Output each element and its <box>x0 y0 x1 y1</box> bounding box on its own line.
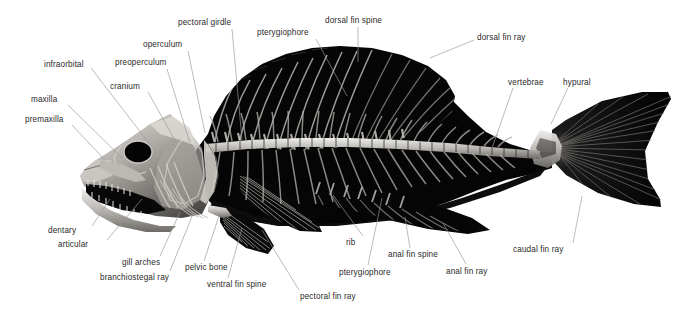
label-pectoral-girdle: pectoral girdle <box>178 18 231 27</box>
caudal-fin <box>530 92 672 207</box>
leader-line-vertebrae <box>492 88 513 148</box>
fish-anatomy-figure: pectoral girdlepterygiophoredorsal fin s… <box>0 0 686 318</box>
leader-line-dorsal-fin-ray <box>430 40 474 58</box>
label-pectoral-fin-ray: pectoral fin ray <box>300 292 356 301</box>
label-preoperculum: preoperculum <box>115 58 167 67</box>
label-infraorbital: infraorbital <box>44 60 84 69</box>
label-pterygiophore-bot: pterygiophore <box>339 268 391 277</box>
label-gill-arches: gill arches <box>122 258 160 267</box>
leader-line-operculum <box>188 51 205 133</box>
label-rib: rib <box>346 238 355 247</box>
label-operculum: operculum <box>143 40 182 49</box>
label-articular: articular <box>58 240 88 249</box>
leader-line-hypural <box>551 88 568 124</box>
label-branchiostegal-ray: branchiostegal ray <box>100 273 169 282</box>
leader-line-premaxilla <box>72 125 105 160</box>
label-pelvic-bone: pelvic bone <box>185 263 228 272</box>
fish-head-skull <box>80 114 218 232</box>
label-anal-fin-ray: anal fin ray <box>446 267 488 276</box>
leader-line-infraorbital <box>91 68 152 147</box>
label-hypural: hypural <box>563 78 591 87</box>
label-dorsal-fin-ray: dorsal fin ray <box>477 33 526 42</box>
leader-line-gill-arches <box>160 212 180 256</box>
label-premaxilla: premaxilla <box>25 115 64 124</box>
label-maxilla: maxilla <box>31 95 57 104</box>
label-dorsal-fin-spine: dorsal fin spine <box>325 16 382 25</box>
leader-line-pectoral-fin-ray <box>262 230 299 290</box>
label-dentary: dentary <box>48 226 76 235</box>
leader-line-maxilla <box>68 105 122 158</box>
label-ventral-fin-spine: ventral fin spine <box>207 280 266 289</box>
label-vertebrae: vertebrae <box>508 78 544 87</box>
label-anal-fin-spine: anal fin spine <box>388 250 438 259</box>
leader-line-caudal-fin-ray <box>573 196 582 243</box>
label-caudal-fin-ray: caudal fin ray <box>513 245 563 254</box>
leader-line-pelvic-bone <box>204 216 219 261</box>
label-cranium: cranium <box>110 82 140 91</box>
label-pterygiophore-top: pterygiophore <box>257 28 309 37</box>
